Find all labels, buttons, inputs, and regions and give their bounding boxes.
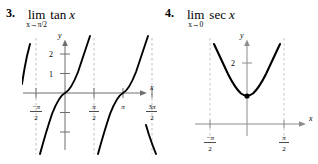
svg-text:π: π	[92, 103, 96, 111]
svg-text:2: 2	[282, 145, 286, 153]
problem-3-expression: lim x→π/2 tanx	[28, 7, 75, 23]
svg-text:2: 2	[34, 114, 38, 122]
x-tick-label-pi-over-2: π 2	[89, 103, 99, 122]
function-name: tan	[50, 7, 66, 22]
svg-text:2: 2	[92, 114, 96, 122]
tangent-branch-right-partial	[146, 125, 156, 154]
tangent-branch-left-partial	[22, 44, 30, 84]
y-axis-label: y	[57, 32, 62, 40]
lim-subscript: x→0	[188, 21, 203, 29]
limit-operator: lim x→0	[187, 8, 204, 21]
y-tick-label-1: 1	[49, 70, 53, 79]
problem-4-number: 4.	[165, 6, 174, 21]
problem-3-plot: y x 2 1 −π 2 π 2 π 3π 2	[22, 32, 157, 157]
limit-operator: lim x→π/2	[28, 8, 45, 21]
x-axis-arrow	[140, 90, 147, 96]
problem-4-header: 4. lim x→0 secx	[187, 5, 235, 23]
svg-text:2: 2	[150, 114, 154, 122]
x-tick-label-neg-pi-over-2: −π 2	[204, 134, 216, 153]
problem-3-header: 3. lim x→π/2 tanx	[28, 5, 75, 23]
x-tick-label-neg-pi-over-2: −π 2	[30, 103, 42, 122]
problem-4-plot: y x 2 −π 2 π 2	[181, 32, 316, 157]
y-axis-arrow	[244, 40, 250, 47]
tangent-graph-svg: y x 2 1 −π 2 π 2 π 3π 2	[22, 32, 157, 157]
x-axis-arrow	[299, 121, 306, 127]
x-tick-label-pi-over-2: π 2	[279, 134, 289, 153]
problem-3: 3. lim x→π/2 tanx	[0, 0, 159, 164]
y-axis-arrow	[62, 40, 68, 47]
svg-text:3π: 3π	[148, 103, 156, 111]
x-axis-label: x	[308, 114, 313, 123]
svg-text:−π: −π	[206, 134, 215, 142]
function-variable: x	[69, 7, 75, 22]
tangent-curve-branches	[22, 36, 156, 154]
svg-text:2: 2	[208, 145, 212, 153]
function-name: sec	[209, 7, 226, 22]
vertex-point-marker	[244, 93, 249, 98]
problem-3-number: 3.	[6, 6, 15, 21]
y-axis-label: y	[239, 32, 244, 40]
x-axis-label: x	[149, 83, 154, 92]
svg-text:−π: −π	[32, 103, 41, 111]
svg-text:π: π	[282, 134, 286, 142]
secant-graph-svg: y x 2 −π 2 π 2	[181, 32, 316, 157]
problem-4-expression: lim x→0 secx	[187, 7, 235, 23]
x-tick-label-pi: π	[121, 103, 125, 111]
problem-4: 4. lim x→0 secx	[159, 0, 318, 164]
y-tick-label-2: 2	[49, 50, 53, 59]
function-variable: x	[229, 7, 235, 22]
lim-subscript: x→π/2	[26, 21, 47, 29]
y-tick-label-2: 2	[231, 59, 235, 68]
x-tick-label-3pi-over-2: 3π 2	[146, 103, 157, 122]
